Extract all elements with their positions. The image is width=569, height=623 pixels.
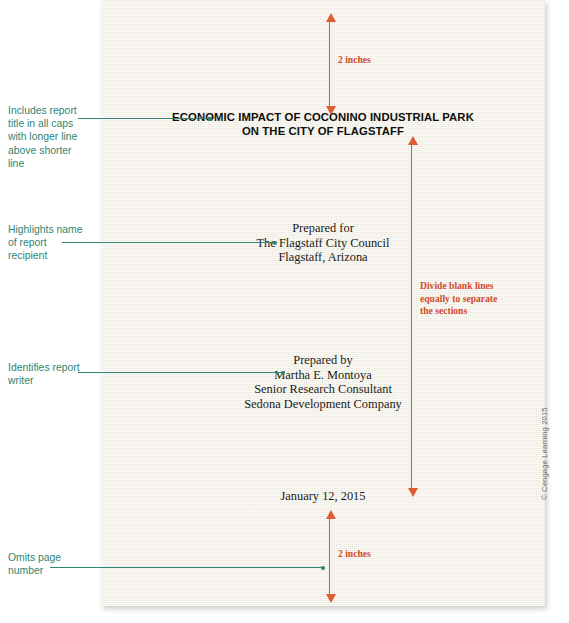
report-title-line-1: ECONOMIC IMPACT OF COCONINO INDUSTRIAL P… xyxy=(101,110,545,124)
divide-blank-lines-label: Divide blank lines equally to separate t… xyxy=(420,280,512,318)
callout-writer-leader-line xyxy=(78,372,282,373)
writer-company: Sedona Development Company xyxy=(101,397,545,412)
divide-label-line-2: equally to separate xyxy=(420,293,512,306)
writer-title: Senior Research Consultant xyxy=(101,382,545,397)
callout-title-line-1: Includes report xyxy=(8,104,86,117)
prepared-by-heading: Prepared by xyxy=(101,353,545,368)
top-margin-arrow-icon xyxy=(329,21,330,107)
callout-page-number-leader-line xyxy=(50,567,322,568)
top-margin-label: 2 inches xyxy=(338,54,371,67)
report-title: ECONOMIC IMPACT OF COCONINO INDUSTRIAL P… xyxy=(101,110,545,138)
copyright-notice: © Cengage Learning 2015 xyxy=(540,380,549,500)
report-title-line-2: ON THE CITY OF FLAGSTAFF xyxy=(101,124,545,138)
callout-page-number-text: Omits page number xyxy=(8,551,86,577)
report-date-text: January 12, 2015 xyxy=(101,489,545,504)
screenshot-canvas: ECONOMIC IMPACT OF COCONINO INDUSTRIAL P… xyxy=(0,0,569,623)
callout-writer-text: Identifies report writer xyxy=(8,361,86,387)
callout-title-line-5: line xyxy=(8,157,86,170)
prepared-for-heading: Prepared for xyxy=(101,221,545,236)
callout-title-leader-line xyxy=(78,118,209,119)
callout-recipient-line-3: recipient xyxy=(8,249,86,262)
callout-writer-line-2: writer xyxy=(8,374,86,387)
recipient-location: Flagstaff, Arizona xyxy=(101,250,545,265)
callout-title-line-3: with longer line xyxy=(8,130,86,143)
bottom-margin-label: 2 inches xyxy=(338,548,371,561)
bottom-margin-arrow-icon xyxy=(329,518,330,595)
callout-recipient-line-1: Highlights name xyxy=(8,223,86,236)
callout-title-line-4: above shorter xyxy=(8,144,86,157)
callout-recipient-leader-line xyxy=(62,242,274,243)
report-date: January 12, 2015 xyxy=(101,489,545,504)
callout-page-line-1: Omits page xyxy=(8,551,86,564)
callout-title-text: Includes report title in all caps with l… xyxy=(8,104,86,170)
prepared-by-block: Prepared by Martha E. Montoya Senior Res… xyxy=(101,353,545,411)
callout-writer-line-1: Identifies report xyxy=(8,361,86,374)
divide-label-line-1: Divide blank lines xyxy=(420,280,512,293)
writer-name: Martha E. Montoya xyxy=(101,368,545,383)
section-spacing-arrow-icon xyxy=(411,144,412,489)
divide-label-line-3: the sections xyxy=(420,305,512,318)
callout-title-line-2: title in all caps xyxy=(8,117,86,130)
